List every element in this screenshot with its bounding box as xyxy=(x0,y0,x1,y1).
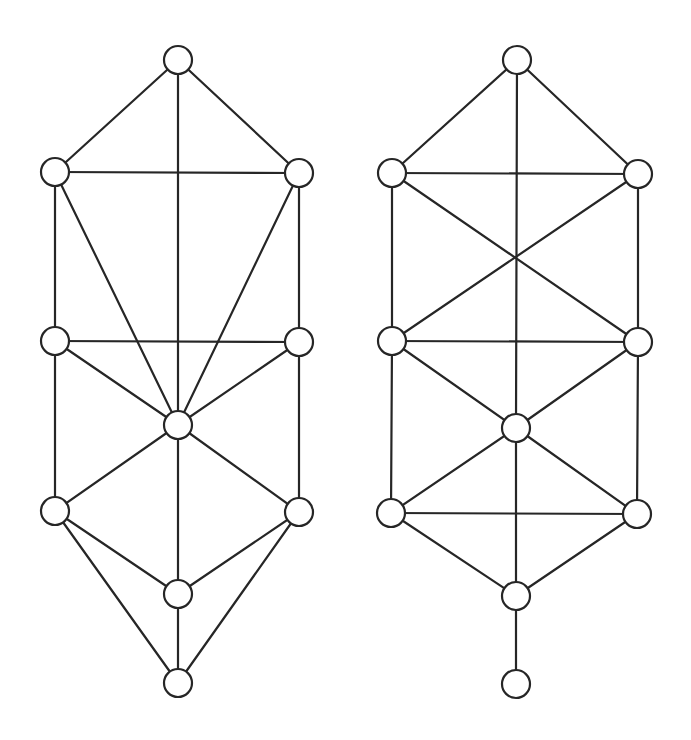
edge-middle-left-middle-right xyxy=(55,341,299,342)
node-middle-left xyxy=(378,327,406,355)
graph-figure xyxy=(0,0,691,740)
node-middle-right xyxy=(624,328,652,356)
edge-middle-left-center xyxy=(55,341,178,425)
edge-middle-left-center xyxy=(392,341,516,428)
right-graph-nodes xyxy=(377,46,652,698)
edge-center-lower-right xyxy=(516,428,637,514)
node-middle-left xyxy=(41,327,69,355)
edge-upper-left-center xyxy=(55,172,178,425)
node-lower-left xyxy=(41,497,69,525)
node-upper-left xyxy=(41,158,69,186)
node-bottom-inner xyxy=(164,580,192,608)
edge-lower-right-bottom xyxy=(178,512,299,683)
edge-middle-left-middle-right xyxy=(392,341,638,342)
node-upper-left xyxy=(378,159,406,187)
edge-center-lower-right xyxy=(178,425,299,512)
edge-upper-right-center xyxy=(178,173,299,425)
edge-top-center xyxy=(516,60,517,428)
edge-top-upper-right xyxy=(178,60,299,173)
node-lower-right xyxy=(285,498,313,526)
node-center xyxy=(164,411,192,439)
edge-lower-left-bottom xyxy=(55,511,178,683)
edge-top-upper-right xyxy=(517,60,638,174)
edge-lower-right-bottom-inner xyxy=(178,512,299,594)
edge-lower-left-bottom-inner xyxy=(391,513,516,596)
edge-middle-right-center xyxy=(516,342,638,428)
node-bottom-inner xyxy=(502,582,530,610)
edge-top-upper-left xyxy=(55,60,178,172)
node-top xyxy=(503,46,531,74)
edge-middle-right-center xyxy=(178,342,299,425)
edge-middle-left-lower-left xyxy=(391,341,392,513)
right-graph xyxy=(377,46,652,698)
node-lower-left xyxy=(377,499,405,527)
edge-upper-left-upper-right xyxy=(392,173,638,174)
edge-lower-right-bottom-inner xyxy=(516,514,637,596)
node-upper-right xyxy=(624,160,652,188)
node-bottom xyxy=(502,670,530,698)
edge-lower-left-bottom-inner xyxy=(55,511,178,594)
node-bottom xyxy=(164,669,192,697)
node-lower-right xyxy=(623,500,651,528)
edge-middle-right-lower-right xyxy=(637,342,638,514)
node-center xyxy=(502,414,530,442)
node-middle-right xyxy=(285,328,313,356)
edge-center-lower-left xyxy=(391,428,516,513)
edge-top-upper-left xyxy=(392,60,517,173)
node-upper-right xyxy=(285,159,313,187)
node-top xyxy=(164,46,192,74)
left-graph xyxy=(41,46,313,697)
edge-upper-left-upper-right xyxy=(55,172,299,173)
edge-center-lower-left xyxy=(55,425,178,511)
edge-lower-left-lower-right xyxy=(391,513,637,514)
